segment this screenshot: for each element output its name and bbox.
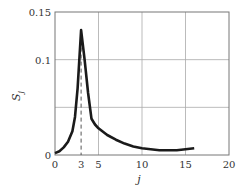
svg-text:0.1: 0.1 [35, 55, 51, 66]
y-axis-label: Sj [10, 90, 25, 101]
svg-text:10: 10 [136, 159, 149, 170]
x-axis-label: j [134, 173, 141, 186]
svg-text:Sj: Sj [10, 90, 25, 101]
svg-text:0: 0 [45, 150, 51, 161]
svg-text:15: 15 [179, 159, 192, 170]
x-tick-labels: 035101520 [52, 159, 236, 170]
data-curve [55, 30, 194, 153]
svg-text:0: 0 [52, 159, 58, 170]
svg-text:3: 3 [78, 159, 84, 170]
chart: 035101520 00.10.15 j Sj [0, 0, 242, 193]
svg-text:0.15: 0.15 [29, 7, 51, 18]
y-tick-labels: 00.10.15 [29, 7, 51, 161]
svg-text:20: 20 [223, 159, 236, 170]
svg-text:5: 5 [95, 159, 101, 170]
